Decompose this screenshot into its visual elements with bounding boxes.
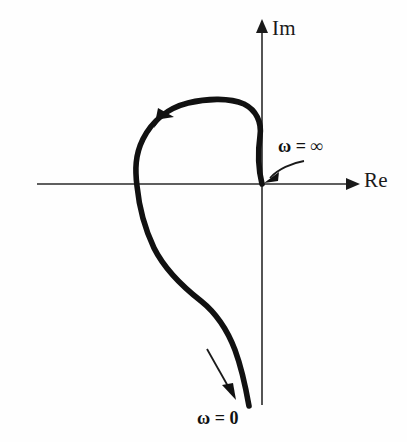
omega-zero-label: ω = 0: [197, 408, 238, 429]
omega-infinity-label: ω = ∞: [278, 136, 323, 157]
omega-zero-pointer: [207, 349, 236, 400]
up-arrow-icon: [256, 19, 268, 33]
nyquist-plot-figure: Im Re ω = ∞ ω = 0: [0, 0, 407, 442]
omega-infinity-arrowhead-icon: [264, 172, 279, 183]
nyquist-contour: [136, 99, 262, 406]
real-axis-label: Re: [364, 168, 388, 193]
omega-zero-arrow-line: [207, 349, 229, 388]
omega-zero-arrowhead-icon: [222, 383, 236, 400]
real-axis: [37, 178, 360, 190]
imaginary-axis-label: Im: [272, 16, 296, 41]
right-arrow-icon: [346, 178, 360, 190]
nyquist-curve-path: [136, 99, 262, 406]
omega-infinity-pointer: [264, 161, 304, 183]
plot-canvas: [0, 0, 407, 442]
imaginary-axis: [256, 19, 268, 405]
